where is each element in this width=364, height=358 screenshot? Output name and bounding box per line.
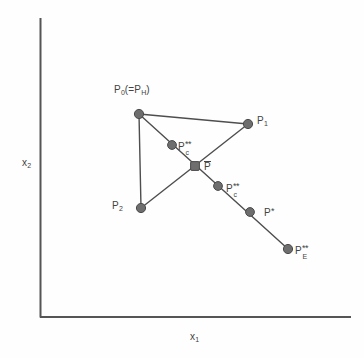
label-pcc-lower-stars: **: [233, 182, 239, 191]
label-pstar-base: P: [264, 207, 271, 218]
node-p2: [136, 203, 145, 212]
x-axis-label: x1: [190, 332, 199, 343]
label-p2-base: P: [112, 200, 119, 211]
label-p0-eq-open: (=P: [125, 84, 141, 95]
label-p1: P1: [257, 116, 268, 127]
label-p2-subscript: 2: [119, 205, 123, 212]
label-pcc-lower-subscript: c: [233, 191, 237, 198]
label-p0-base: P: [114, 84, 121, 95]
label-p2: P2: [112, 201, 123, 212]
diagram-canvas: [0, 0, 364, 358]
label-pcc-upper-stars: **: [185, 140, 191, 149]
label-p0-eq-close: ): [146, 84, 150, 95]
label-p1-base: P: [257, 115, 264, 126]
node-p1: [243, 119, 252, 128]
label-pcc-upper-subscript: c: [185, 149, 189, 156]
edge-p0-p1: [139, 114, 248, 124]
x-axis-label-subscript: 1: [195, 336, 199, 343]
edge-p0-p2: [139, 114, 141, 208]
y-axis-label: x2: [22, 158, 31, 169]
y-axis-label-subscript: 2: [27, 162, 31, 169]
label-pcce-stars: **: [302, 244, 308, 253]
label-pstar-stars: *: [271, 206, 274, 216]
label-pcce-base: P: [295, 245, 302, 256]
node-pcc-upper: [168, 141, 177, 150]
label-pcce-subscript: E: [302, 253, 307, 260]
label-pcc-upper-base: P: [178, 141, 185, 152]
label-pstar: P*: [264, 207, 274, 218]
node-pstar: [246, 208, 255, 217]
label-pcce: P**E: [295, 246, 302, 256]
label-p0: P0(=PH): [114, 85, 150, 96]
node-pcce: [283, 244, 292, 253]
node-p0: [134, 109, 143, 118]
edge-p0-ray-to-pcce: [139, 114, 288, 249]
simplex-diagram-figure: P0(=PH) P1 P2 P**c P P**c P* P**E x2 x1: [0, 0, 364, 358]
label-pcc-lower-base: P: [226, 183, 233, 194]
node-pcc-lower: [214, 182, 223, 191]
node-pbar: [191, 162, 200, 171]
label-pcc-lower: P**c: [226, 184, 233, 194]
label-pbar-base: P: [204, 161, 211, 172]
label-p1-subscript: 1: [264, 120, 268, 127]
label-pbar: P: [204, 161, 211, 172]
label-pcc-upper: P**c: [178, 142, 185, 152]
edges-group: [139, 114, 288, 249]
